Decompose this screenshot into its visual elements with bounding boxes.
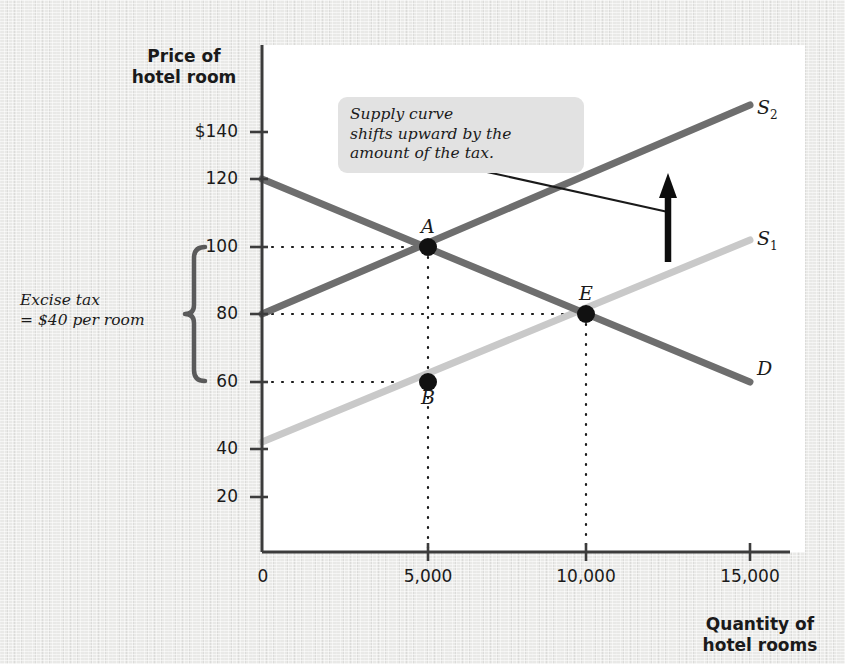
curve-label-s1-subscript: 1 [770,239,778,253]
excise-tax-line-2: = $40 per room [20,310,195,330]
curve-label-s1-text: S [757,227,770,249]
y-axis-title-line1: Price of [114,46,254,67]
y-axis-title: Price of hotel room [114,46,254,88]
point-label-a: A [421,215,435,237]
y-axis-title-line2: hotel room [114,67,254,88]
callout-line-3: amount of the tax. [350,144,572,164]
x-tick-label-0: 0 [238,566,288,586]
callout-supply-shift: Supply curve shifts upward by the amount… [338,97,584,173]
curve-label-d: D [757,357,772,379]
curve-label-s2: S2 [757,96,778,122]
curve-label-s2-subscript: 2 [770,108,778,122]
y-tick-label-20: 20 [158,486,238,506]
supply-curve-s1 [262,240,750,442]
y-tick-label-40: 40 [158,438,238,458]
point-label-e: E [579,282,593,304]
x-tick-label-15000: 15,000 [695,566,805,586]
point-a-marker [419,238,437,256]
callout-line-2: shifts upward by the [350,125,572,145]
point-e-marker [577,305,595,323]
x-tick-label-5000: 5,000 [378,566,478,586]
x-axis-title-line1: Quantity of [690,614,830,635]
y-tick-label-140: $140 [158,121,238,141]
shift-arrow-icon [659,173,677,262]
point-label-b: B [421,386,435,408]
excise-tax-label: Excise tax = $40 per room [20,290,195,330]
y-tick-label-100: 100 [158,236,238,256]
y-tick-label-120: 120 [158,168,238,188]
excise-tax-line-1: Excise tax [20,290,195,310]
x-axis-title-line2: hotel rooms [690,635,830,656]
x-tick-label-10000: 10,000 [531,566,641,586]
x-axis-title: Quantity of hotel rooms [690,614,830,656]
curve-label-s1: S1 [757,227,778,253]
y-tick-label-60: 60 [158,371,238,391]
curve-label-s2-text: S [757,96,770,118]
callout-line-1: Supply curve [350,105,572,125]
